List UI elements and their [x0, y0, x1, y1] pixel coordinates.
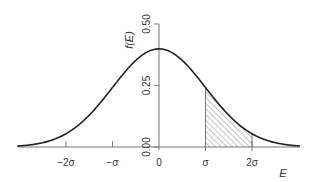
y-axis-title: f(E) [123, 31, 135, 49]
x-tick-label: −2σ [57, 157, 75, 168]
x-axis-title: E [279, 167, 287, 179]
y-tick-label: 0.25 [141, 75, 152, 95]
y-tick-label: 0.00 [141, 137, 152, 157]
x-tick-label: 2σ [246, 157, 259, 168]
density-curve [17, 49, 300, 146]
y-ticks: 0.000.250.50 [141, 14, 159, 157]
x-tick-label: 0 [156, 157, 162, 168]
chart-root: 0.000.250.50 −2σ−σ0σ2σ f(E) E [0, 0, 314, 182]
x-tick-label: σ [202, 157, 209, 168]
y-tick-label: 0.50 [141, 14, 152, 34]
x-tick-label: −σ [106, 157, 119, 168]
normal-distribution-plot: 0.000.250.50 −2σ−σ0σ2σ f(E) E [0, 0, 314, 182]
